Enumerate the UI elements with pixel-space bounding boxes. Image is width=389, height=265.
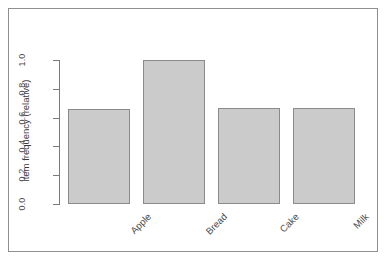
y-tick-label-5: 1.0 — [17, 38, 27, 82]
bar-milk — [293, 108, 355, 204]
y-tick-3 — [53, 118, 59, 119]
x-tick-label-apple: Apple — [128, 211, 153, 236]
x-tick-label-cake: Cake — [277, 211, 300, 234]
bar-bread — [143, 60, 205, 204]
x-tick-label-bread: Bread — [203, 211, 229, 237]
bar-apple — [68, 109, 130, 204]
x-tick-label-milk: Milk — [351, 211, 371, 231]
y-axis-line — [59, 60, 60, 205]
y-tick-4 — [53, 89, 59, 90]
item-frequency-bar-chart: item frequency (relative) 0.0 0.2 0.4 0.… — [0, 0, 389, 265]
y-tick-2 — [53, 146, 59, 147]
y-tick-0 — [53, 204, 59, 205]
bar-cake — [218, 108, 280, 204]
plot-area: item frequency (relative) 0.0 0.2 0.4 0.… — [0, 0, 389, 265]
y-tick-5 — [53, 60, 59, 61]
y-tick-1 — [53, 175, 59, 176]
